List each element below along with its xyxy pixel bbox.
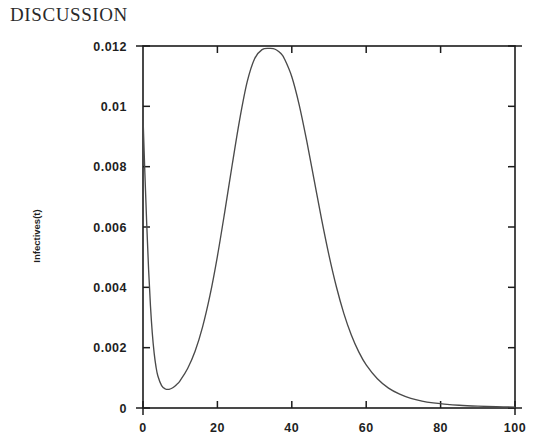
y-axis-tick-labels: 00.0020.0040.0060.0080.010.012 xyxy=(93,40,127,416)
axis-tick-marks xyxy=(136,46,522,415)
x-tick-label: 20 xyxy=(210,421,225,435)
plot-frame xyxy=(143,46,515,408)
infectives-line-chart: 020406080100 00.0020.0040.0060.0080.010.… xyxy=(0,0,553,442)
x-tick-label: 0 xyxy=(139,421,146,435)
data-series-group xyxy=(143,48,515,407)
y-tick-label: 0 xyxy=(120,402,127,416)
y-axis-title-text: Infectives(t) xyxy=(31,209,42,262)
y-axis-title: Infectives(t) xyxy=(31,209,42,262)
y-tick-label: 0.002 xyxy=(93,341,127,355)
x-tick-label: 80 xyxy=(433,421,448,435)
y-tick-label: 0.006 xyxy=(93,221,127,235)
y-tick-label: 0.008 xyxy=(93,160,127,174)
x-axis-tick-labels: 020406080100 xyxy=(139,421,526,435)
infectives-curve xyxy=(143,48,515,407)
x-tick-label: 60 xyxy=(359,421,374,435)
y-tick-label: 0.004 xyxy=(93,281,127,295)
x-tick-label: 100 xyxy=(504,421,526,435)
y-tick-label: 0.012 xyxy=(93,40,127,54)
x-tick-label: 40 xyxy=(284,421,299,435)
y-tick-label: 0.01 xyxy=(101,100,127,114)
